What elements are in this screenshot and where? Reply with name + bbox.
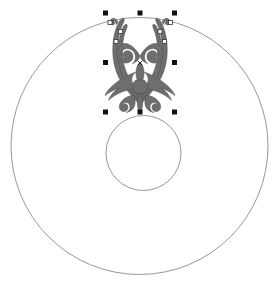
drawing-canvas[interactable] bbox=[0, 0, 280, 297]
handle-middle-left[interactable] bbox=[103, 60, 108, 65]
ornament-right-half bbox=[139, 18, 175, 112]
handle-bottom-left[interactable] bbox=[103, 110, 108, 115]
node-right-inner-marker[interactable] bbox=[158, 30, 162, 34]
ornament-left-half bbox=[105, 18, 141, 112]
node-right-outer-marker[interactable] bbox=[169, 21, 173, 25]
node-right-mid-marker[interactable] bbox=[163, 40, 167, 44]
handle-bottom-right[interactable] bbox=[172, 110, 177, 115]
node-left-outer-marker[interactable] bbox=[108, 21, 112, 25]
handle-top-right[interactable] bbox=[172, 11, 177, 16]
handle-top-center[interactable] bbox=[138, 11, 143, 16]
handle-bottom-center[interactable] bbox=[138, 110, 143, 115]
handle-middle-right[interactable] bbox=[172, 60, 177, 65]
node-left-inner-marker[interactable] bbox=[119, 30, 123, 34]
canvas-svg-surface[interactable] bbox=[0, 0, 280, 297]
inner-circle[interactable] bbox=[106, 116, 181, 191]
handle-top-left[interactable] bbox=[103, 11, 108, 16]
node-left-mid-marker[interactable] bbox=[114, 40, 118, 44]
filigree-ornament[interactable] bbox=[105, 18, 175, 112]
